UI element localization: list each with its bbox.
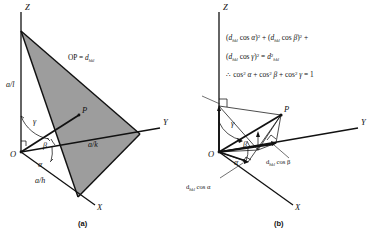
leader-d-cos-gamma — [202, 96, 220, 104]
intercept-label-x-a: a/h — [35, 176, 45, 185]
beta-arc-tick — [47, 138, 50, 141]
component-vertical-arrowhead — [256, 131, 260, 137]
point-p-marker-b — [279, 113, 282, 116]
beta-label-a: β — [42, 141, 47, 150]
gamma-label-a: γ — [33, 117, 37, 126]
beta-arc-a — [51, 139, 55, 145]
figure-root: Z Y X O P a/l a/k a/h γ β α OP = dhkl (a… — [0, 0, 371, 234]
caption-a: (a) — [78, 219, 88, 228]
d-subscript-a: hkl — [89, 58, 95, 63]
beta-label-b: β — [242, 140, 247, 149]
edge-p-to-xproj — [248, 115, 281, 162]
equation-line-1: (dhkl cos α)2 + (dhkl cos β)2 + — [226, 33, 308, 43]
label-d-cos-alpha: dhkl cos α — [186, 183, 211, 192]
point-o-marker-b — [218, 151, 221, 154]
panel-b: Z Y X O P γ β α dhkl cos γ dhkl cos β dh… — [186, 0, 371, 234]
alpha-arc-b — [246, 148, 248, 161]
point-p-label-a: P — [81, 105, 87, 115]
x-axis-label-a: X — [96, 202, 103, 212]
leader-d-cos-alpha — [220, 163, 243, 178]
op-prefix-text: OP = — [68, 53, 85, 62]
point-p-marker-a — [78, 114, 81, 117]
y-axis-label-a: Y — [163, 117, 169, 127]
alpha-arc-a — [51, 147, 52, 161]
point-p-label-b: P — [283, 104, 289, 114]
edge-zproj-to-p — [219, 106, 281, 115]
right-angle-mark-a — [21, 141, 26, 146]
point-o-marker-a — [20, 151, 23, 154]
intercept-label-z-a: a/l — [6, 80, 15, 89]
label-d-cos-beta: dhkl cos β — [266, 158, 291, 167]
intercept-label-y-a: a/k — [88, 140, 98, 149]
equation-line-2: (dhkl cos γ)2 = d2hkl — [226, 52, 280, 62]
equation-line-3: ∴ cos2 α + cos2 β + cos2 γ = 1 — [226, 70, 314, 79]
leader-d-cos-beta — [274, 145, 289, 158]
y-axis-label-b: Y — [361, 117, 367, 127]
caption-b: (b) — [274, 219, 284, 228]
x-axis-label-b: X — [294, 202, 301, 212]
right-angle-mark-y-b — [267, 135, 276, 140]
panel-a: Z Y X O P a/l a/k a/h γ β α OP = dhkl (a… — [0, 0, 186, 234]
z-axis-label-b: Z — [223, 2, 228, 12]
origin-label-b: O — [208, 149, 214, 159]
op-equals-annotation-a: OP = dhkl — [68, 53, 95, 63]
component-x-arrow — [219, 152, 246, 161]
z-axis-label-a: Z — [25, 2, 30, 12]
origin-label-a: O — [10, 149, 16, 159]
edge-zproj-diag — [219, 106, 258, 150]
